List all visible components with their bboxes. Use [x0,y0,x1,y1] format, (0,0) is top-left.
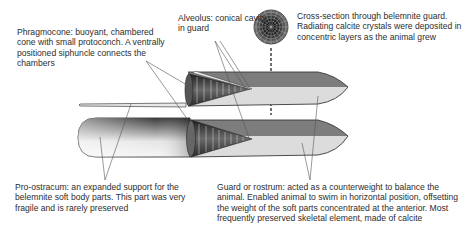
pro-ostracum-label: Pro-ostracum: an expanded support for th… [15,182,190,213]
lower-pro-ostracum [78,118,190,157]
cross-section-label: Cross-section through belemnite guard. R… [297,11,462,42]
alveolus-label: Alveolus: conical cavity in guard [178,13,268,34]
guard-label: Guard or rostrum: acted as a counterweig… [217,182,462,224]
upper-pro-ostracum [79,103,186,107]
phragmocone-label: Phragmocone: buoyant, chambered cone wit… [17,27,167,69]
